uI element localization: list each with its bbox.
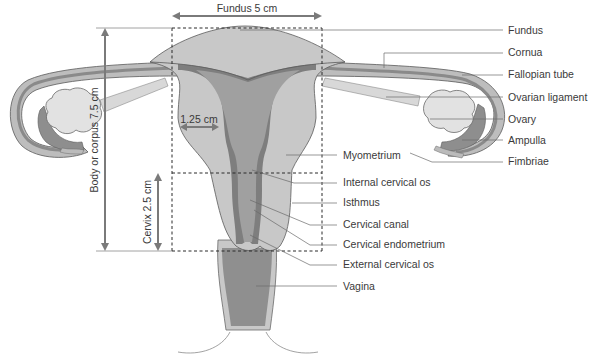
right-ovarian-ligament [322, 78, 420, 106]
label-myometrium: Myometrium [343, 149, 401, 161]
label-ampulla: Ampulla [508, 134, 546, 146]
right-adnexa [316, 62, 505, 158]
label-cervical-endometrium: Cervical endometrium [343, 238, 445, 250]
label-ovary: Ovary [508, 113, 537, 125]
label-fimbriae: Fimbriae [508, 155, 549, 167]
fundus-width-dimension: Fundus 5 cm [172, 2, 322, 20]
fundus-width-label: Fundus 5 cm [217, 2, 278, 14]
label-cervical-canal: Cervical canal [343, 218, 409, 230]
label-isthmus: Isthmus [343, 196, 380, 208]
label-external-cervical-os: External cervical os [343, 258, 434, 270]
body-length-label: Body or corpus 7.5 cm [88, 87, 100, 192]
cervix-length-dimension: Cervix 2.5 cm [141, 173, 162, 251]
left-ovarian-ligament [100, 78, 168, 112]
wall-thickness-label: 1.25 cm [180, 113, 218, 125]
label-vagina: Vagina [343, 280, 375, 292]
label-ovarian-ligament: Ovarian ligament [508, 91, 587, 103]
uterus-anatomy-diagram: Fundus 5 cm Body or corpus 7.5 cm Cervix… [0, 0, 593, 364]
label-fundus: Fundus [508, 24, 543, 36]
cervix-length-label: Cervix 2.5 cm [141, 180, 153, 244]
label-internal-cervical-os: Internal cervical os [343, 176, 431, 188]
label-fallopian-tube: Fallopian tube [508, 68, 574, 80]
body-length-dimension: Body or corpus 7.5 cm [88, 28, 109, 251]
uterus [150, 26, 345, 353]
labels: Fundus Cornua Fallopian tube Ovarian lig… [343, 24, 587, 292]
right-ovary [424, 90, 475, 133]
label-cornua: Cornua [508, 46, 543, 58]
